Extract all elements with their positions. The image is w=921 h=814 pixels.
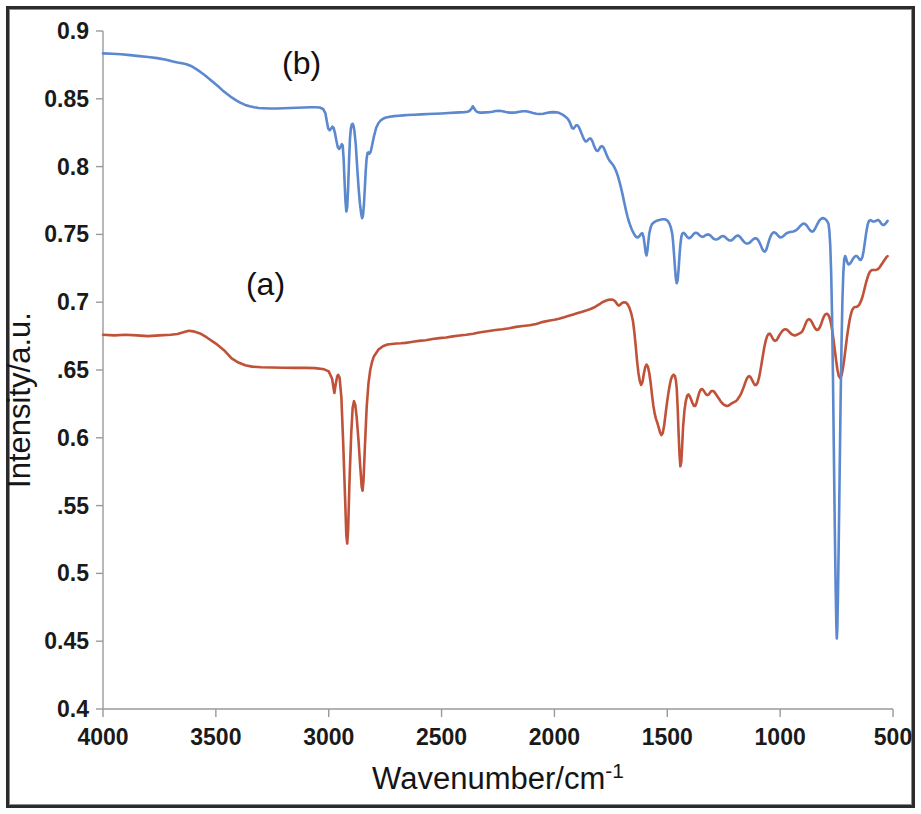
x-tick-label: 3500 bbox=[190, 724, 241, 750]
y-tick-label: 0.75 bbox=[44, 221, 89, 247]
x-tick-label: 1500 bbox=[642, 724, 693, 750]
ftir-figure: 0.90.850.80.750.7.650.6.550.50.450.4 400… bbox=[0, 0, 921, 814]
y-tick-label: 0.5 bbox=[57, 560, 89, 586]
y-tick-label: 0.45 bbox=[44, 628, 89, 654]
x-tick-label: 2000 bbox=[529, 724, 580, 750]
plot-area-background bbox=[103, 31, 893, 709]
y-axis-title: Intensity/a.u. bbox=[2, 312, 37, 488]
x-tick-label: 500 bbox=[874, 724, 912, 750]
x-axis-title-superscript: -1 bbox=[605, 759, 624, 782]
x-axis-title: Wavenumber/cm-1 bbox=[372, 759, 624, 796]
curve-label-a: (a) bbox=[246, 266, 285, 302]
y-tick-label: 0.9 bbox=[57, 18, 89, 44]
y-tick-label: 0.7 bbox=[57, 289, 89, 315]
curve-label-b: (b) bbox=[282, 45, 321, 81]
y-tick-label: 0.4 bbox=[57, 696, 89, 722]
y-tick-label: .65 bbox=[57, 357, 89, 383]
x-axis-title-main: Wavenumber/cm bbox=[372, 761, 605, 796]
ftir-chart: 0.90.850.80.750.7.650.6.550.50.450.4 400… bbox=[0, 0, 921, 814]
y-tick-label: 0.6 bbox=[57, 425, 89, 451]
y-tick-label: .55 bbox=[57, 493, 89, 519]
x-tick-label: 2500 bbox=[416, 724, 467, 750]
x-tick-label: 3000 bbox=[303, 724, 354, 750]
y-tick-label: 0.8 bbox=[57, 154, 89, 180]
x-tick-label: 4000 bbox=[77, 724, 128, 750]
y-axis-ticks: 0.90.850.80.750.7.650.6.550.50.450.4 bbox=[44, 18, 103, 722]
y-tick-label: 0.85 bbox=[44, 86, 89, 112]
x-axis-ticks: 4000350030002500200015001000500 bbox=[77, 709, 912, 750]
x-tick-label: 1000 bbox=[755, 724, 806, 750]
